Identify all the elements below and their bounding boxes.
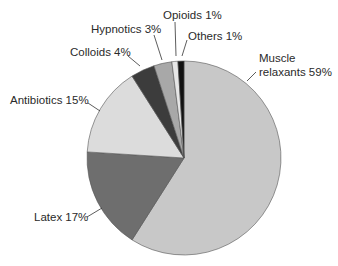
leader-hypnotics: [154, 35, 162, 60]
label-antibiotics: Antibiotics 15%: [10, 94, 89, 107]
label-others: Others 1%: [188, 30, 242, 43]
label-muscle-relaxants-line1: Muscle: [259, 52, 295, 65]
leader-opioids: [175, 22, 176, 56]
leader-latex: [87, 208, 102, 217]
leader-others: [182, 40, 187, 56]
leader-antibiotics: [88, 103, 100, 111]
label-muscle-relaxants-line2: relaxants 59%: [259, 66, 332, 79]
label-hypnotics: Hypnotics 3%: [91, 23, 161, 36]
pie-slices: [87, 61, 281, 255]
pie-chart: [0, 0, 338, 266]
label-latex: Latex 17%: [34, 211, 88, 224]
leader-muscle: [247, 72, 256, 81]
label-colloids: Colloids 4%: [70, 46, 131, 59]
label-opioids: Opioids 1%: [163, 9, 222, 22]
